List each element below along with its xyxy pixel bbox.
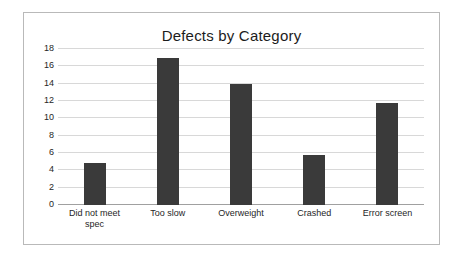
x-axis-category-label: Error screen — [351, 208, 424, 230]
y-axis-tick-label: 2 — [49, 182, 54, 192]
x-axis-category-label: Crashed — [278, 208, 351, 230]
y-axis-tick-label: 4 — [49, 164, 54, 174]
y-axis-tick-label: 10 — [44, 112, 54, 122]
x-axis-labels: Did not meet specToo slowOverweightCrash… — [58, 208, 424, 230]
y-axis-tick-label: 18 — [44, 43, 54, 53]
x-axis-category-label: Overweight — [204, 208, 277, 230]
bar-slot — [131, 49, 204, 205]
bar[interactable] — [376, 103, 398, 205]
y-axis-tick-label: 8 — [49, 130, 54, 140]
x-axis-category-label: Too slow — [131, 208, 204, 230]
bar[interactable] — [157, 58, 179, 205]
y-axis-tick-label: 6 — [49, 147, 54, 157]
y-axis-tick-label: 14 — [44, 78, 54, 88]
y-axis-tick-label: 0 — [49, 199, 54, 209]
plot-area: 024681012141618 — [58, 49, 424, 205]
bar-slot — [351, 49, 424, 205]
bar-slot — [278, 49, 351, 205]
y-axis-tick-label: 16 — [44, 60, 54, 70]
x-axis-category-label: Did not meet spec — [58, 208, 131, 230]
bar[interactable] — [303, 155, 325, 205]
bar[interactable] — [84, 163, 106, 205]
bar[interactable] — [230, 84, 252, 205]
y-axis-tick-label: 12 — [44, 95, 54, 105]
chart-frame: Defects by Category 024681012141618 Did … — [23, 12, 440, 245]
bar-slot — [58, 49, 131, 205]
chart-title: Defects by Category — [24, 27, 439, 44]
bar-slot — [204, 49, 277, 205]
bars-group — [58, 49, 424, 205]
